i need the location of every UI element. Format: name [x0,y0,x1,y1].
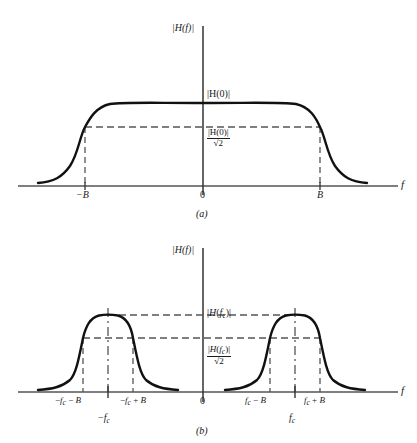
panel-a-y-axis-label: |H(f)| [172,22,194,33]
panel-a-plot [0,0,417,230]
panel-b-tick-label-l1: −fc − B [55,395,81,407]
panel-b-tick-label-r2: fc + B [304,395,325,407]
panel-b-caption: (b) [196,425,208,436]
panel-b-half-power-numerator: |H(fc)| [207,345,231,357]
panel-a-tick-label-zero: 0 [200,189,205,200]
panel-b-peak-label: |H(fc)| [207,307,231,320]
panel-b-center-label-right: fc [289,412,295,425]
panel-b-peak-label-text: |H(fc)| [207,307,231,318]
panel-b-half-power-label: |H(fc)| √2 [207,345,231,366]
panel-b-tick-label-l2: −fc + B [120,395,146,407]
panel-b-center-label-left: −fc [98,412,110,425]
panel-a-half-power-label: |H(0)| √2 [207,128,230,148]
panel-b-y-axis-label: |H(f)| [172,244,194,255]
panel-a-x-axis-label: f [401,178,404,190]
panel-b-tick-label-zero: 0 [200,395,205,406]
panel-a-tick-label-pos-b: B [317,189,323,200]
panel-a-peak-label: |H(0)| [207,88,230,99]
panel-a-caption: (a) [196,208,208,219]
panel-a-half-power-denominator: √2 [207,139,230,149]
panel-a-half-power-numerator: |H(0)| [207,128,230,139]
panel-b-x-axis-label: f [401,384,404,396]
panel-b-half-power-denominator: √2 [207,357,231,367]
panel-a-tick-label-neg-b: −B [76,189,89,200]
figure-container: |H(f)| |H(0)| |H(0)| √2 −B 0 B f (a) |H(… [0,0,417,443]
panel-b-plot [0,230,417,443]
panel-b-tick-label-r1: fc − B [245,395,266,407]
